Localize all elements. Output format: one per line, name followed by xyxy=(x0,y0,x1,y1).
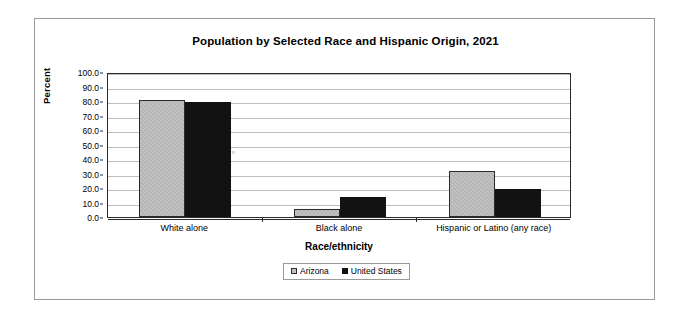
y-tick-label: 90.0 xyxy=(82,83,99,93)
x-tick-mark xyxy=(262,218,263,222)
legend-item-united-states[interactable]: United States xyxy=(342,266,402,276)
y-axis-ticks: 0.010.020.030.040.050.060.070.080.090.01… xyxy=(47,73,103,218)
plot-area xyxy=(107,73,571,218)
x-tick-label: White alone xyxy=(161,223,209,233)
y-tick-label: 70.0 xyxy=(82,112,99,122)
y-tick-mark xyxy=(100,87,103,88)
bar-series-container xyxy=(108,74,570,217)
x-tick-label: Hispanic or Latino (any race) xyxy=(436,223,551,233)
bar-united-states-hispanic-or-latino-any-race- xyxy=(495,189,541,217)
bar-united-states-black-alone xyxy=(340,197,386,217)
y-tick-label: 10.0 xyxy=(82,199,99,209)
y-tick-mark xyxy=(100,73,103,74)
render-artifact xyxy=(232,151,235,154)
y-tick-mark xyxy=(100,160,103,161)
y-tick-mark xyxy=(100,145,103,146)
legend-swatch-icon xyxy=(342,268,348,274)
y-tick-label: 60.0 xyxy=(82,126,99,136)
legend-swatch-icon xyxy=(291,268,297,274)
x-tick-mark xyxy=(416,218,417,222)
bar-arizona-black-alone xyxy=(294,209,340,217)
chart-title: Population by Selected Race and Hispanic… xyxy=(35,35,656,47)
y-tick-mark xyxy=(100,218,103,219)
x-axis-category-labels: White aloneBlack aloneHispanic or Latino… xyxy=(107,223,571,239)
legend-label: United States xyxy=(351,266,402,276)
y-tick-label: 40.0 xyxy=(82,155,99,165)
legend-item-arizona[interactable]: Arizona xyxy=(291,266,329,276)
bar-arizona-white-alone xyxy=(139,100,185,217)
y-tick-label: 0.0 xyxy=(87,213,99,223)
y-tick-mark xyxy=(100,102,103,103)
y-tick-label: 30.0 xyxy=(82,170,99,180)
x-tick-label: Black alone xyxy=(316,223,363,233)
chart-figure: Population by Selected Race and Hispanic… xyxy=(34,18,655,300)
bar-united-states-white-alone xyxy=(185,102,231,217)
y-tick-label: 20.0 xyxy=(82,184,99,194)
y-tick-label: 100.0 xyxy=(78,68,99,78)
y-tick-mark xyxy=(100,174,103,175)
x-axis-title: Race/ethnicity xyxy=(107,241,571,252)
y-tick-mark xyxy=(100,116,103,117)
legend-label: Arizona xyxy=(300,266,329,276)
y-tick-label: 80.0 xyxy=(82,97,99,107)
y-tick-mark xyxy=(100,131,103,132)
chart-legend: ArizonaUnited States xyxy=(283,263,410,280)
bar-arizona-hispanic-or-latino-any-race- xyxy=(449,171,495,217)
y-tick-mark xyxy=(100,189,103,190)
y-tick-label: 50.0 xyxy=(82,141,99,151)
y-tick-mark xyxy=(100,203,103,204)
